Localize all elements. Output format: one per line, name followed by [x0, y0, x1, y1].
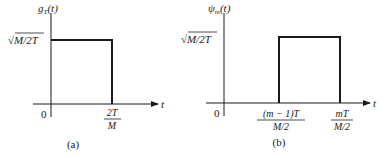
t-label-a: t	[161, 98, 165, 110]
caption-a: (a)	[67, 138, 80, 151]
pulse-b	[279, 37, 340, 103]
origin-label-a: 0	[41, 108, 47, 120]
svg-text:mT: mT	[336, 108, 350, 119]
pulse-a	[51, 40, 112, 104]
svg-text:M/2: M/2	[272, 121, 289, 132]
origin-label-b: 0	[214, 107, 220, 119]
svg-text:M/2: M/2	[333, 121, 350, 132]
diagram-canvas: gT(t) √M/2T 0 t 2T M (a) ψm(t) √M/2T 0 t…	[0, 0, 387, 158]
caption-b: (b)	[273, 136, 286, 149]
tick-label-mT-over-M2: mT M/2	[331, 108, 353, 132]
amplitude-label-a: √M/2T	[8, 34, 39, 46]
svg-text:(m − 1)T: (m − 1)T	[263, 108, 301, 120]
y-label-a: gT(t)	[38, 2, 58, 16]
svg-text:2T: 2T	[107, 107, 119, 118]
tick-label-2T-over-M: 2T M	[104, 107, 121, 131]
svg-text:M: M	[107, 120, 117, 131]
tick-label-m-minus-1-T-over-M2: (m − 1)T M/2	[257, 108, 305, 132]
y-label-b: ψm(t)	[208, 2, 231, 16]
panel-b: ψm(t) √M/2T 0 t (m − 1)T M/2 mT M/2 (b)	[181, 2, 377, 149]
t-label-b: t	[373, 97, 377, 109]
panel-a: gT(t) √M/2T 0 t 2T M (a)	[8, 2, 165, 151]
amplitude-label-b: √M/2T	[181, 33, 212, 45]
